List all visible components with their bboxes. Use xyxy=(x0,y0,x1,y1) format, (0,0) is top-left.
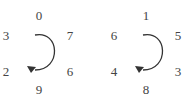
clockwise-arrow-icon xyxy=(0,0,92,98)
left-dial: 0 3 7 2 6 9 xyxy=(0,0,92,98)
right-dial: 1 6 5 4 3 8 xyxy=(92,0,184,98)
clockwise-arrow-icon xyxy=(92,0,185,98)
